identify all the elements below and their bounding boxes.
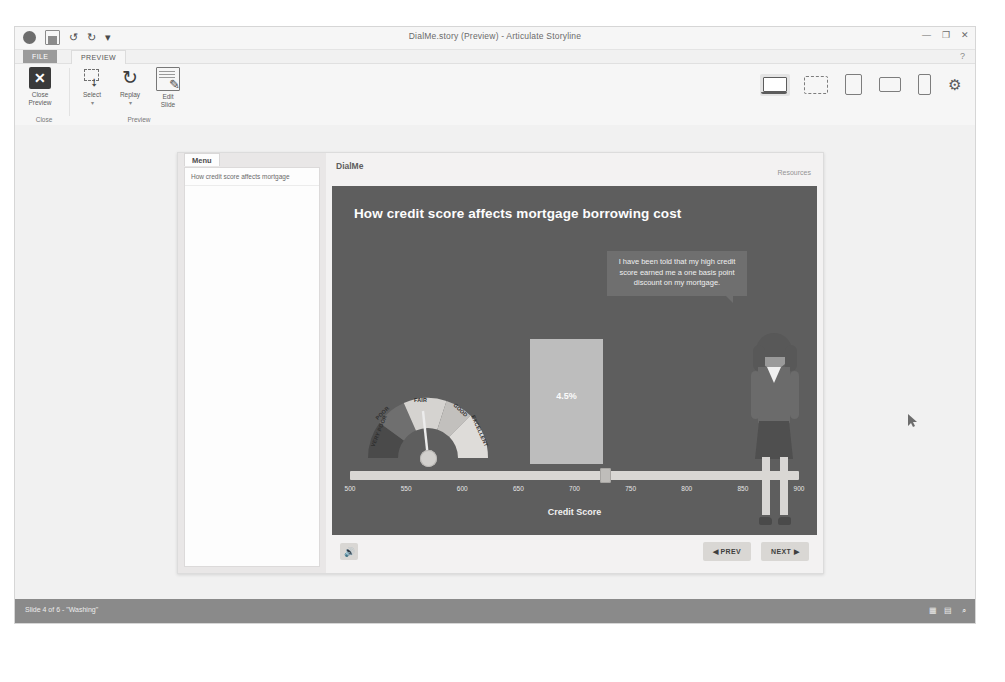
- status-bar: Slide 4 of 6 - "Washing" ▦ ▤ ⌕: [15, 599, 975, 623]
- ribbon: ✕ Close Preview Close Select ▾ ↻: [15, 64, 975, 127]
- course-player: Menu How credit score affects mortgage D…: [177, 152, 824, 574]
- axis-tick-700: 700: [569, 485, 580, 492]
- character-illustration: [747, 337, 803, 527]
- rate-bar: 4.5%: [530, 339, 603, 464]
- close-preview-label-2: Preview: [28, 99, 51, 106]
- credit-score-gauge: VERY POOR POOR FAIR GOOD EXCELLENT: [364, 394, 492, 460]
- device-phone-button[interactable]: [918, 74, 931, 95]
- next-button[interactable]: NEXT ▶: [761, 542, 809, 561]
- menu-panel: Menu How credit score affects mortgage: [178, 153, 326, 573]
- axis-title: Credit Score: [332, 507, 817, 517]
- tab-file[interactable]: FILE: [23, 50, 57, 63]
- slide-stage: DialMe Resources How credit score affect…: [326, 153, 823, 573]
- select-dropdown-icon[interactable]: ▾: [91, 101, 94, 106]
- close-preview-button[interactable]: ✕ Close Preview: [21, 67, 59, 106]
- title-bar: ↺ ↻ ▾ DialMe.story (Preview) - Articulat…: [15, 27, 975, 50]
- slider-thumb[interactable]: [600, 468, 611, 483]
- tablet-portrait-icon: [845, 74, 862, 95]
- device-laptop-button[interactable]: [760, 74, 790, 96]
- tab-menu[interactable]: Menu: [184, 153, 220, 166]
- slide-title: How credit score affects mortgage borrow…: [354, 206, 681, 221]
- help-icon[interactable]: ?: [960, 51, 965, 61]
- rate-bar-value-label: 4.5%: [530, 391, 603, 401]
- device-tablet-dashed-button[interactable]: [804, 76, 828, 94]
- gauge-hub: [420, 450, 437, 467]
- axis-tick-900: 900: [794, 485, 805, 492]
- edit-slide-label-2: Slide: [161, 101, 175, 108]
- tab-preview[interactable]: PREVIEW: [71, 50, 126, 64]
- axis-tick-650: 650: [513, 485, 524, 492]
- device-tablet-portrait-button[interactable]: [845, 74, 862, 95]
- replay-label: Replay: [120, 91, 140, 99]
- window-title: DialMe.story (Preview) - Articulate Stor…: [15, 31, 975, 41]
- slide-header: DialMe Resources: [326, 153, 823, 186]
- axis-tick-750: 750: [625, 485, 636, 492]
- select-button[interactable]: Select ▾: [73, 67, 111, 106]
- speech-bubble-text: I have been told that my high credit sco…: [613, 257, 741, 289]
- axis-tick-550: 550: [401, 485, 412, 492]
- ribbon-group-close: ✕ Close Preview Close: [21, 67, 67, 123]
- axis-tick-850: 850: [737, 485, 748, 492]
- select-icon: [81, 67, 103, 89]
- close-button[interactable]: ✕: [961, 30, 969, 40]
- mouse-cursor: [908, 414, 917, 427]
- volume-icon[interactable]: 🔊: [340, 543, 358, 560]
- gauge-label-fair: FAIR: [414, 397, 427, 403]
- close-preview-label-1: Close: [32, 91, 49, 98]
- axis-tick-600: 600: [457, 485, 468, 492]
- grid-view-icon[interactable]: ▦: [929, 606, 937, 615]
- ribbon-tab-strip: FILE PREVIEW ?: [15, 50, 975, 64]
- window-controls: — ❐ ✕: [922, 30, 969, 40]
- normal-view-icon[interactable]: ▤: [944, 606, 952, 615]
- application-window: ↺ ↻ ▾ DialMe.story (Preview) - Articulat…: [14, 26, 976, 624]
- axis-tick-500: 500: [345, 485, 356, 492]
- axis-tick-800: 800: [681, 485, 692, 492]
- replay-dropdown-icon[interactable]: ▾: [129, 101, 132, 106]
- phone-icon: [918, 74, 931, 95]
- speech-bubble: I have been told that my high credit sco…: [607, 251, 747, 296]
- replay-button[interactable]: ↻ Replay ▾: [111, 67, 149, 106]
- prev-button[interactable]: ◀ PREV: [703, 542, 751, 561]
- resources-link[interactable]: Resources: [778, 169, 811, 176]
- player-brand-title: DialMe: [336, 161, 363, 171]
- edit-slide-button[interactable]: Edit Slide: [149, 67, 187, 108]
- preview-settings-button[interactable]: ⚙: [948, 77, 961, 92]
- ribbon-group-preview-label: Preview: [73, 116, 205, 123]
- player-control-bar: 🔊 ◀ PREV NEXT ▶: [332, 537, 817, 567]
- preview-canvas: Menu How credit score affects mortgage D…: [15, 125, 975, 599]
- menu-list-item[interactable]: How credit score affects mortgage: [185, 168, 319, 186]
- tablet-dashed-icon: [804, 76, 828, 94]
- replay-icon: ↻: [119, 67, 141, 89]
- ribbon-group-close-label: Close: [21, 116, 67, 123]
- menu-tab-row: Menu: [178, 153, 326, 167]
- ribbon-group-preview: Select ▾ ↻ Replay ▾ Edit Slide Preview: [73, 67, 205, 123]
- credit-score-slider[interactable]: [350, 471, 799, 480]
- device-tablet-landscape-button[interactable]: [879, 77, 901, 92]
- menu-list: How credit score affects mortgage: [184, 167, 320, 567]
- credit-score-axis: 500 550 600 650 700 750 800 850 900: [350, 485, 799, 497]
- edit-slide-label-1: Edit: [162, 93, 173, 100]
- close-x-icon: ✕: [29, 67, 51, 89]
- restore-button[interactable]: ❐: [942, 30, 950, 40]
- gear-icon: ⚙: [948, 77, 961, 92]
- slide-content: How credit score affects mortgage borrow…: [332, 186, 817, 535]
- minimize-button[interactable]: —: [922, 30, 931, 40]
- laptop-icon: [763, 77, 787, 93]
- zoom-icon[interactable]: ⌕: [962, 606, 966, 616]
- status-text: Slide 4 of 6 - "Washing": [25, 606, 98, 613]
- select-label: Select: [83, 91, 101, 99]
- device-preview-bar: ⚙: [763, 74, 961, 95]
- edit-slide-icon: [156, 67, 180, 91]
- ribbon-group-divider: [69, 68, 70, 116]
- tablet-landscape-icon: [879, 77, 901, 92]
